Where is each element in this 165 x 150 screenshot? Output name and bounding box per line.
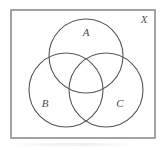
venn-diagram-figure: X A B C — [0, 0, 165, 150]
set-b-label: B — [42, 97, 49, 109]
set-c-label: C — [116, 97, 124, 109]
venn-diagram-canvas: X A B C — [0, 0, 165, 150]
universal-set-label: X — [140, 13, 149, 25]
set-a-label: A — [82, 26, 90, 38]
